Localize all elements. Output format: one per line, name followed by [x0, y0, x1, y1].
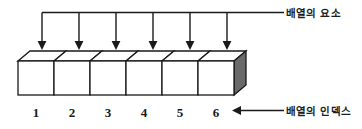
- element-arrowhead-5: [186, 41, 195, 50]
- cell-front-face-3: [90, 61, 126, 95]
- cell-front-face-6: [198, 61, 234, 95]
- index-arrowhead: [232, 106, 241, 115]
- index-number-5: 5: [170, 106, 190, 120]
- index-number-2: 2: [62, 106, 82, 120]
- cell-front-face-5: [162, 61, 198, 95]
- element-arrowhead-3: [112, 41, 121, 50]
- element-pointer-group: [38, 13, 284, 51]
- index-number-3: 3: [98, 106, 118, 120]
- cell-front-face-2: [54, 61, 90, 95]
- index-number-1: 1: [26, 106, 46, 120]
- element-arrowhead-2: [75, 41, 84, 50]
- array-diagram-figure: 1 2 3 4 5 6 배열의 요소 배열의 인덱스: [0, 0, 362, 129]
- cell-front-face-1: [18, 61, 54, 95]
- array-index-label: 배열의 인덱스: [286, 105, 351, 117]
- index-number-6: 6: [206, 106, 226, 120]
- element-arrowhead-1: [38, 41, 47, 50]
- array-box-3d: [18, 51, 246, 95]
- index-number-4: 4: [134, 106, 154, 120]
- index-pointer-group: [232, 106, 284, 115]
- element-arrowhead-6: [223, 41, 232, 50]
- array-element-label: 배열의 요소: [286, 7, 341, 19]
- cell-front-face-4: [126, 61, 162, 95]
- element-arrowhead-4: [149, 41, 158, 50]
